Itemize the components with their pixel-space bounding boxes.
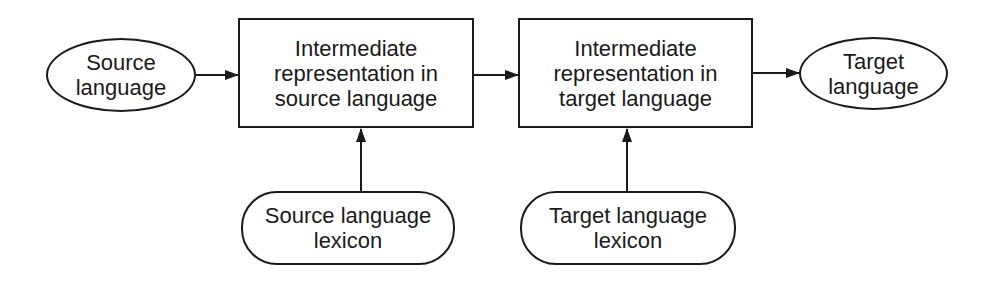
node-ir-source: Intermediate representation in source la… xyxy=(238,18,474,128)
node-label-line: lexicon xyxy=(314,228,382,253)
node-target-lexicon: Target language lexicon xyxy=(520,191,736,265)
node-label-line: representation in xyxy=(274,61,438,86)
node-label-line: Intermediate xyxy=(295,36,417,61)
node-source-language: Source language xyxy=(46,38,196,112)
node-label-line: source language xyxy=(275,86,438,111)
node-label-line: language xyxy=(76,75,167,100)
node-label-line: lexicon xyxy=(594,228,662,253)
node-label-line: Source language xyxy=(265,203,431,228)
node-ir-target: Intermediate representation in target la… xyxy=(518,18,753,128)
node-label-line: target language xyxy=(559,86,712,111)
node-label-line: language xyxy=(828,74,919,99)
node-label-line: Intermediate xyxy=(574,36,696,61)
node-source-lexicon: Source language lexicon xyxy=(241,191,455,265)
node-label-line: Source xyxy=(86,50,156,75)
node-label-line: Target xyxy=(843,49,904,74)
node-target-language: Target language xyxy=(799,37,948,110)
node-label-line: Target language xyxy=(549,203,707,228)
node-label-line: representation in xyxy=(554,61,718,86)
